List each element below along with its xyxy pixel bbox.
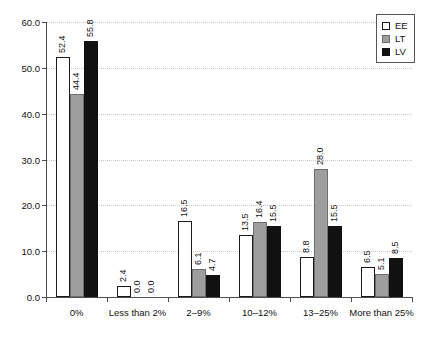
bar-lv-3 bbox=[267, 226, 281, 297]
legend-item-label: LV bbox=[395, 47, 406, 57]
gray-square-icon bbox=[382, 35, 390, 43]
bar-lt-4 bbox=[314, 169, 328, 297]
y-axis-tick-label: 20.0 bbox=[0, 200, 40, 211]
y-axis-tick-label: 0.0 bbox=[0, 292, 40, 303]
bar-value-label: 6.1 bbox=[193, 253, 203, 266]
bar-lt-5 bbox=[375, 274, 389, 297]
legend-item-label: LT bbox=[395, 34, 405, 44]
bar-value-label: 8.8 bbox=[301, 240, 311, 253]
legend: EELTLV bbox=[376, 14, 415, 63]
x-axis-tick-mark bbox=[412, 297, 413, 302]
x-axis-tick-mark bbox=[168, 297, 169, 302]
x-axis-category-label: 13–25% bbox=[303, 307, 338, 318]
bar-lt-3 bbox=[253, 222, 267, 297]
bar-value-label: 44.4 bbox=[71, 72, 81, 90]
bar-lv-0 bbox=[84, 41, 98, 297]
bar-ee-4 bbox=[300, 257, 314, 297]
y-axis-tick-label: 30.0 bbox=[0, 154, 40, 165]
x-axis-tick-mark bbox=[107, 297, 108, 302]
y-axis-tick-label: 60.0 bbox=[0, 17, 40, 28]
y-axis-tick-label: 10.0 bbox=[0, 246, 40, 257]
bar-value-label: 16.5 bbox=[179, 200, 189, 218]
bar-value-label: 15.5 bbox=[329, 204, 339, 222]
y-axis-tick-label: 40.0 bbox=[0, 108, 40, 119]
x-axis-tick-mark bbox=[351, 297, 352, 302]
bar-ee-2 bbox=[178, 221, 192, 297]
bar-ee-5 bbox=[361, 267, 375, 297]
y-axis-tick-label: 50.0 bbox=[0, 62, 40, 73]
legend-item-ee: EE bbox=[382, 19, 408, 32]
bar-lv-5 bbox=[389, 258, 403, 297]
bar-value-label: 16.4 bbox=[254, 200, 264, 218]
x-axis-category-label: Less than 2% bbox=[109, 307, 167, 318]
black-square-icon bbox=[382, 48, 390, 56]
bar-lv-2 bbox=[206, 275, 220, 297]
bar-value-label: 13.5 bbox=[240, 214, 250, 232]
x-axis-category-label: 0% bbox=[70, 307, 84, 318]
x-axis-tick-mark bbox=[46, 297, 47, 302]
bar-value-label: 5.1 bbox=[376, 257, 386, 270]
bar-value-label: 4.7 bbox=[207, 259, 217, 272]
bar-lt-2 bbox=[192, 269, 206, 297]
bar-ee-0 bbox=[56, 57, 70, 297]
bar-ee-1 bbox=[117, 286, 131, 297]
x-axis-category-label: 2–9% bbox=[186, 307, 210, 318]
bar-lt-0 bbox=[70, 94, 84, 298]
bar-ee-3 bbox=[239, 235, 253, 297]
bar-value-label: 0.0 bbox=[146, 280, 156, 293]
white-square-icon bbox=[382, 22, 390, 30]
legend-item-lv: LV bbox=[382, 45, 408, 58]
bar-value-label: 15.5 bbox=[268, 204, 278, 222]
x-axis-category-label: More than 25% bbox=[349, 307, 413, 318]
bar-lv-4 bbox=[328, 226, 342, 297]
bar-value-label: 2.4 bbox=[118, 269, 128, 282]
bar-value-label: 55.8 bbox=[85, 20, 95, 38]
legend-item-label: EE bbox=[395, 21, 408, 31]
bar-value-label: 28.0 bbox=[315, 147, 325, 165]
x-axis-tick-mark bbox=[229, 297, 230, 302]
bar-value-label: 52.4 bbox=[57, 35, 67, 53]
plot-area: 52.444.455.82.40.00.016.56.14.713.516.41… bbox=[46, 22, 412, 297]
bar-value-label: 8.5 bbox=[390, 242, 400, 255]
bar-chart: 0.010.020.030.040.050.060.0 52.444.455.8… bbox=[0, 0, 434, 342]
legend-item-lt: LT bbox=[382, 32, 408, 45]
x-axis-tick-mark bbox=[290, 297, 291, 302]
bar-value-label: 0.0 bbox=[132, 280, 142, 293]
bar-value-label: 6.5 bbox=[362, 251, 372, 264]
x-axis-category-label: 10–12% bbox=[242, 307, 277, 318]
